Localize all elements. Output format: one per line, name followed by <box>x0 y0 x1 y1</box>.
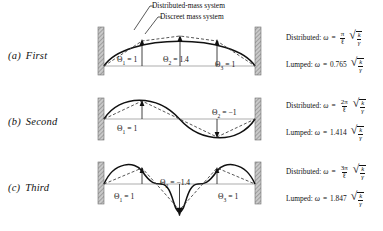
theta-value: 1 <box>130 192 134 201</box>
radical-sign: √ <box>351 58 358 74</box>
radical-denominator: γ <box>357 39 362 47</box>
equals-sign: = <box>332 34 336 41</box>
frequency-fraction: π ℓ <box>340 31 346 46</box>
mode-shape-second <box>95 92 285 152</box>
radical: √ k γ <box>349 30 362 46</box>
equation-distributed-first: Distributed: ω = π ℓ √ k γ <box>286 30 362 46</box>
theta-subscript: 3 <box>220 65 223 71</box>
mode-row-first: (a)First <box>0 24 383 84</box>
row-label-second: (b)Second <box>8 116 57 127</box>
wall-right-second <box>255 98 261 140</box>
radical-sign: √ <box>353 165 360 181</box>
equation-lumped-third: Lumped: ω = 1.847 √ k γ <box>286 191 364 207</box>
amplitude-label-first-2: Θ2 = 1.4 <box>163 55 189 66</box>
theta-value: −1.4 <box>176 178 190 187</box>
radical-sign: √ <box>353 99 360 115</box>
theta-value: 1 <box>231 60 235 69</box>
row-name-first: First <box>26 50 47 61</box>
theta-subscript: 2 <box>217 113 220 119</box>
omega-symbol: ω <box>323 168 328 175</box>
radical-denominator: γ <box>358 134 363 142</box>
distributed-lead: Distributed: <box>286 168 321 175</box>
amplitude-label-third-3: Θ3 = 1 <box>218 192 238 203</box>
wall-left-third <box>98 162 104 204</box>
distributed-lead: Distributed: <box>286 34 321 41</box>
radical: √ k γ <box>351 125 364 141</box>
lumped-lead: Lumped: <box>286 195 313 202</box>
theta-subscript: 2 <box>168 60 171 66</box>
omega-symbol: ω <box>315 129 320 136</box>
amplitude-label-first-3: Θ3 = 1 <box>215 60 235 71</box>
amplitude-label-second-1: Θ1 = 1 <box>117 124 137 135</box>
lumped-coefficient: 1.414 <box>330 129 347 136</box>
amplitude-label-second-2: Θ2 = −1 <box>212 108 236 119</box>
mode-row-second: (b)Second Θ1 <box>0 92 383 152</box>
theta-subscript: 3 <box>223 197 226 203</box>
radical-numerator: k <box>359 127 362 134</box>
theta-equals: = <box>222 108 226 117</box>
radical-denominator: γ <box>360 107 365 115</box>
wall-left-second <box>98 98 104 140</box>
theta-subscript: 1 <box>122 60 125 66</box>
row-label-first: (a)First <box>8 50 47 61</box>
radical-sign: √ <box>349 31 356 47</box>
radical-numerator: k <box>358 32 361 39</box>
theta-equals: = <box>127 55 131 64</box>
fraction-numerator: 3π <box>340 165 349 172</box>
equation-distributed-third: Distributed: ω = 3π ℓ √ k γ <box>286 164 366 180</box>
theta-subscript: 1 <box>119 197 122 203</box>
omega-symbol: ω <box>323 102 328 109</box>
lumped-lead: Lumped: <box>286 61 313 68</box>
row-name-third: Third <box>25 182 49 193</box>
theta-value: 1 <box>133 55 137 64</box>
radical-sign: √ <box>351 192 358 208</box>
theta-value: 1 <box>133 124 137 133</box>
equals-sign: = <box>323 129 327 136</box>
theta-value: 1 <box>234 192 238 201</box>
equals-sign: = <box>323 61 327 68</box>
radical-denominator: γ <box>358 200 363 208</box>
equals-sign: = <box>323 195 327 202</box>
radical: √ k γ <box>351 57 364 73</box>
radical: √ k γ <box>351 191 364 207</box>
amplitude-label-third-1: Θ1 = 1 <box>114 192 134 203</box>
wall-left-first <box>98 27 104 75</box>
omega-symbol: ω <box>323 34 328 41</box>
frequency-fraction: 3π ℓ <box>340 165 349 180</box>
equation-distributed-second: Distributed: ω = 2π ℓ √ k γ <box>286 98 366 114</box>
theta-subscript: 2 <box>165 183 168 189</box>
row-name-second: Second <box>26 116 58 127</box>
radical: √ k γ <box>353 98 366 114</box>
equation-lumped-first: Lumped: ω = 0.765 √ k γ <box>286 57 364 73</box>
theta-value: −1 <box>228 108 236 117</box>
radical-numerator: k <box>361 166 364 173</box>
wall-right-first <box>255 27 261 75</box>
theta-equals: = <box>124 192 128 201</box>
row-enum-first: (a) <box>8 50 21 61</box>
amplitude-label-first-1: Θ1 = 1 <box>117 55 137 66</box>
fraction-numerator: 2π <box>340 99 349 106</box>
radical-denominator: γ <box>360 173 365 181</box>
fraction-numerator: π <box>340 31 346 38</box>
amplitude-arrows-third <box>140 167 220 216</box>
mode-row-third: (c)Third <box>0 158 383 226</box>
row-enum-second: (b) <box>8 116 21 127</box>
theta-subscript: 1 <box>122 129 125 135</box>
lumped-lead: Lumped: <box>286 129 313 136</box>
wall-right-third <box>255 162 261 204</box>
equals-sign: = <box>332 168 336 175</box>
theta-equals: = <box>173 55 177 64</box>
radical-numerator: k <box>361 100 364 107</box>
radical-numerator: k <box>359 193 362 200</box>
radical-numerator: k <box>359 59 362 66</box>
distributed-lead: Distributed: <box>286 102 321 109</box>
lumped-coefficient: 0.765 <box>330 61 347 68</box>
theta-equals: = <box>170 178 174 187</box>
figure-root: Distributed-mass system Discreet mass sy… <box>0 0 383 231</box>
omega-symbol: ω <box>315 195 320 202</box>
frequency-fraction: 2π ℓ <box>340 99 349 114</box>
theta-equals: = <box>127 124 131 133</box>
theta-equals: = <box>225 60 229 69</box>
fraction-denominator: ℓ <box>342 172 347 180</box>
equals-sign: = <box>332 102 336 109</box>
